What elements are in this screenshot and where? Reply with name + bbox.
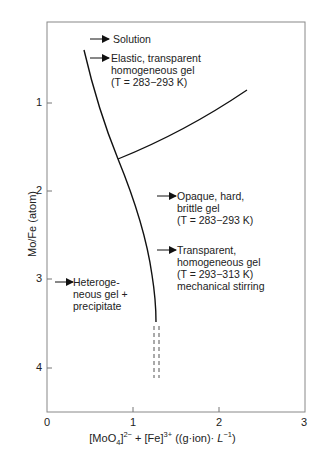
y-ticks xyxy=(47,103,52,368)
x-tick-label: 3 xyxy=(301,416,307,428)
label-line: Heteroge- xyxy=(73,276,128,288)
label-line: (T = 283−293 K) xyxy=(177,214,253,226)
y-tick-label: 4 xyxy=(36,361,42,373)
y-axis-title: Mo/Fe (atom) xyxy=(26,184,38,264)
x-tick-label: 2 xyxy=(216,416,222,428)
x-axis-title-part: ((g·ion)· xyxy=(172,432,217,444)
label-line: Opaque, hard, xyxy=(177,190,253,202)
label-line: mechanical stirring xyxy=(177,280,265,292)
label-line: neous gel + xyxy=(73,288,128,300)
label-line: (T = 283−293 K) xyxy=(111,76,201,88)
x-axis-title-part: ) xyxy=(232,432,236,444)
label-line: homogeneous gel xyxy=(177,256,265,268)
label-heterogeneous-gel: Heteroge- neous gel + precipitate xyxy=(73,276,128,312)
label-line: brittle gel xyxy=(177,202,253,214)
x-tick-label: 1 xyxy=(130,416,136,428)
x-axis-title-part: + [Fe] xyxy=(132,432,164,444)
x-axis-title-part: 3+ xyxy=(164,430,173,439)
label-line: (T = 293−313 K) xyxy=(177,268,265,280)
x-axis-title: [MoO4]2− + [Fe]3+ ((g·ion)· L−1) xyxy=(0,430,325,447)
label-line: Transparent, xyxy=(177,244,265,256)
label-opaque-gel: Opaque, hard, brittle gel (T = 283−293 K… xyxy=(177,190,253,226)
x-axis-title-part: 2− xyxy=(123,430,132,439)
upper-branch-curve xyxy=(118,90,247,159)
label-line: precipitate xyxy=(73,300,128,312)
label-solution: Solution xyxy=(113,33,151,45)
label-transparent-gel: Transparent, homogeneous gel (T = 293−31… xyxy=(177,244,265,292)
x-axis-title-part: [MoO xyxy=(89,432,116,444)
label-elastic-gel: Elastic, transparent homogeneous gel (T … xyxy=(111,52,201,88)
label-line: Elastic, transparent xyxy=(111,52,201,64)
y-tick-label: 3 xyxy=(36,272,42,284)
x-ticks xyxy=(133,407,219,412)
label-line: homogeneous gel xyxy=(111,64,201,76)
x-axis-title-part: −1 xyxy=(223,430,232,439)
x-tick-label: 0 xyxy=(44,416,50,428)
y-tick-label: 1 xyxy=(36,96,42,108)
